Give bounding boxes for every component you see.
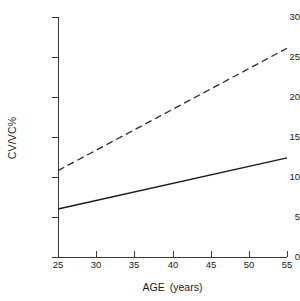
series-line-solid: [58, 158, 287, 209]
x-axis-title-unit: (years): [170, 281, 203, 293]
x-axis-title-text: AGE: [143, 281, 165, 293]
series-layer: [0, 0, 300, 301]
y-axis-title: CV/VC%: [6, 98, 18, 178]
x-axis-title: AGE(years): [58, 281, 287, 293]
chart-figure: 0 5 10 15 20 25 30 25 30 35 40 45 50 55 …: [0, 0, 300, 301]
series-line-dashed: [58, 48, 287, 170]
